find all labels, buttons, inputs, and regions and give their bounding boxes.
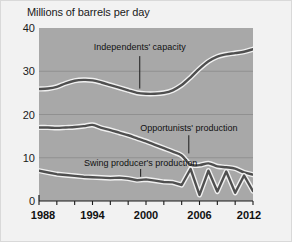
x-axis-tick-label: 1994 [80,209,104,221]
y-axis-tick-label: 30 [23,65,35,77]
chart-title: Millions of barrels per day [27,6,150,18]
series-annotation-label: Swing producer's production [84,158,197,168]
y-axis-tick-label: 20 [23,109,35,121]
series-annotation-label: Opportunists' production [140,123,237,133]
x-axis-tick-label: 2006 [187,209,211,221]
series-annotation-label: Independents' capacity [94,42,186,52]
x-axis-tick-label: 2000 [134,209,158,221]
y-axis-tick-label: 40 [23,22,35,34]
chart-svg [39,28,253,201]
y-axis-tick-label: 10 [23,152,35,164]
y-axis-tick-label: 0 [29,195,35,207]
x-axis-tick-label: 2012 [237,209,261,221]
chart-figure: Millions of barrels per day 010203040 In… [0,0,292,242]
y-axis-labels: 010203040 [1,28,35,201]
x-axis-labels: 19881994200020062012 [39,209,253,229]
plot-area [39,28,253,201]
x-axis-tick-label: 1988 [31,209,55,221]
